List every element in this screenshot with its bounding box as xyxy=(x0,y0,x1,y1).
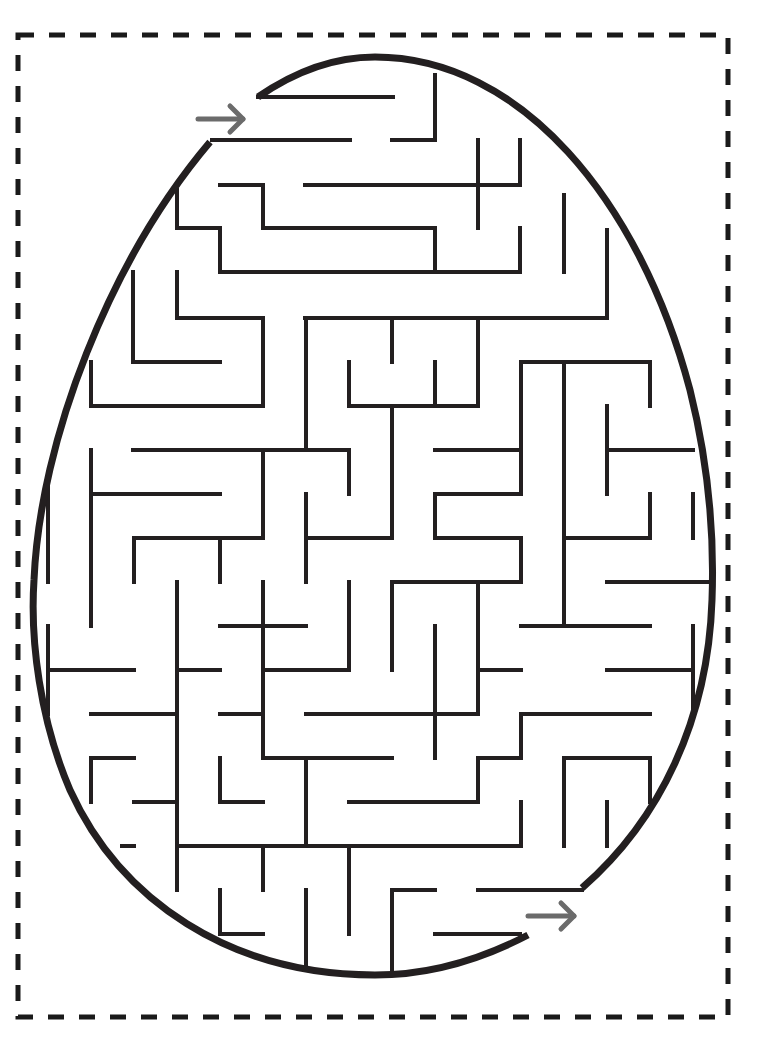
start-arrow-icon xyxy=(198,106,243,132)
egg-outline xyxy=(33,57,712,975)
finish-arrow-icon xyxy=(528,903,574,929)
maze-board[interactable] xyxy=(0,0,770,1056)
